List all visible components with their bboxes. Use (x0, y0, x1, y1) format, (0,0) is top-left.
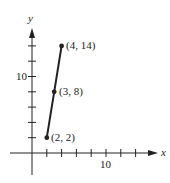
y-tick-label-10: 10 (16, 70, 28, 82)
x-axis-arrow-icon (148, 150, 158, 156)
y-axis-arrow-icon (29, 28, 35, 38)
x-tick-label-10: 10 (100, 158, 112, 170)
data-point-3-8 (52, 89, 57, 94)
x-axis-label: x (160, 146, 166, 158)
y-axis-label: y (27, 12, 33, 24)
point-label-3-8: (3, 8) (59, 85, 83, 98)
point-label-4-14: (4, 14) (66, 39, 96, 52)
point-label-2-2: (2, 2) (51, 131, 75, 144)
data-point-4-14 (59, 44, 64, 49)
chart-canvas: x y 10 10 (2, 2) (3, 8) (4, 14) (0, 0, 170, 183)
data-point-2-2 (44, 135, 49, 140)
